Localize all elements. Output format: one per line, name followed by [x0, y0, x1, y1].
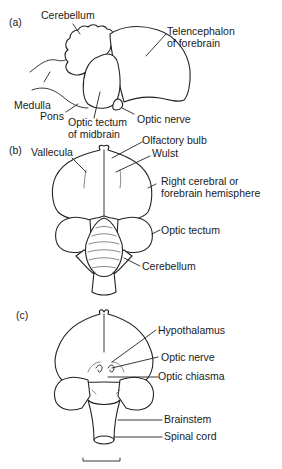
label-optic-nerve-c: Optic nerve — [161, 351, 215, 363]
label-hemisphere-line1: Right cerebral or — [161, 175, 239, 187]
label-brainstem: Brainstem — [164, 413, 211, 425]
label-wulst: Wulst — [152, 147, 178, 159]
label-optic-chiasma: Optic chiasma — [158, 370, 225, 382]
panel-c-drawing — [55, 310, 163, 461]
label-optic-tectum-line2: of midbrain — [68, 128, 120, 140]
label-telencephalon-line1: Telencephalon — [167, 25, 235, 37]
scale-bar — [83, 458, 120, 462]
panel-b-tag: (b) — [9, 144, 22, 156]
label-optic-tectum-b: Optic tectum — [161, 224, 220, 236]
label-optic-nerve-a: Optic nerve — [137, 113, 191, 125]
label-telencephalon-line2: of forebrain — [167, 37, 220, 49]
panel-b-drawing — [52, 142, 160, 295]
label-cerebellum-a: Cerebellum — [41, 9, 95, 21]
panel-a-tag: (a) — [9, 16, 22, 28]
label-olfactory-bulb: Olfactory bulb — [142, 134, 207, 146]
label-hemisphere-line2: forebrain hemisphere — [161, 187, 260, 199]
label-vallecula: Vallecula — [31, 146, 73, 158]
label-spinal-cord: Spinal cord — [164, 430, 217, 442]
label-pons: Pons — [40, 110, 64, 122]
bird-brain-diagram: (a) Cerebellum Telencephalon of forebrai… — [0, 0, 282, 469]
label-cerebellum-b: Cerebellum — [142, 260, 196, 272]
label-hypothalamus: Hypothalamus — [158, 324, 225, 336]
brain-illustrations — [0, 0, 282, 469]
label-optic-tectum-line1: Optic tectum — [68, 116, 127, 128]
panel-c-tag: (c) — [16, 309, 28, 321]
